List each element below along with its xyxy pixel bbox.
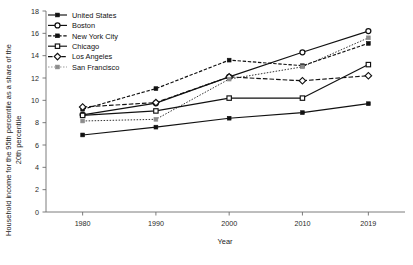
data-point-marker [366, 102, 370, 106]
y-tick-label: 12 [31, 74, 39, 83]
legend-label: Los Angeles [72, 52, 113, 61]
y-tick-label: 2 [35, 185, 39, 194]
legend-label: New York City [72, 32, 118, 41]
data-point-marker [81, 119, 85, 123]
x-tick-label: 1990 [148, 219, 164, 228]
data-point-marker [301, 65, 305, 69]
data-point-marker [366, 29, 371, 34]
y-tick-label: 0 [35, 208, 39, 217]
x-tick-label: 1980 [75, 219, 91, 228]
data-point-marker [55, 44, 59, 48]
data-point-marker [55, 23, 60, 28]
y-tick-label: 6 [35, 141, 39, 150]
y-tick-label: 4 [35, 163, 39, 172]
y-axis-title-line1: Household income for the 95th percentile… [4, 44, 13, 236]
data-point-marker [81, 133, 85, 137]
data-point-marker [227, 58, 231, 62]
data-point-marker [154, 125, 158, 129]
data-point-marker [366, 36, 370, 40]
data-point-marker [366, 62, 370, 66]
data-point-marker [300, 96, 304, 100]
data-point-marker [154, 87, 158, 91]
data-point-marker [56, 65, 60, 69]
y-tick-label: 10 [31, 96, 39, 105]
data-point-marker [154, 109, 158, 113]
y-tick-label: 16 [31, 29, 39, 38]
data-point-marker [227, 116, 231, 120]
legend-label: United States [72, 11, 117, 20]
x-tick-label: 2019 [360, 219, 376, 228]
legend-label: Boston [72, 21, 95, 30]
data-point-marker [56, 13, 60, 17]
y-tick-label: 8 [35, 118, 39, 127]
data-point-marker [300, 50, 305, 55]
line-chart: Household income for the 95th percentile… [0, 0, 413, 265]
y-tick-label: 14 [31, 51, 39, 60]
data-point-marker [227, 96, 231, 100]
x-tick-label: 2010 [294, 219, 310, 228]
chart-background [0, 0, 413, 265]
y-axis-title-line2: 20th percentile [14, 116, 23, 164]
data-point-marker [154, 117, 158, 121]
legend-item-los-angeles[interactable]: Los Angeles [48, 52, 113, 61]
data-point-marker [56, 34, 60, 38]
y-tick-label: 18 [31, 7, 39, 16]
data-point-marker [301, 111, 305, 115]
data-point-marker [80, 113, 84, 117]
data-point-marker [366, 41, 370, 45]
chart-container: Household income for the 95th percentile… [0, 0, 413, 265]
legend-label: Chicago [72, 42, 99, 51]
x-axis-title: Year [218, 237, 233, 246]
data-point-marker [227, 77, 231, 81]
legend-label: San Francisco [72, 63, 119, 72]
x-tick-label: 2000 [221, 219, 237, 228]
